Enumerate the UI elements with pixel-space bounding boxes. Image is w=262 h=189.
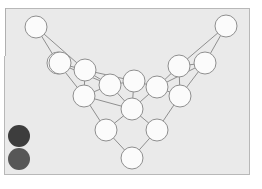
graph-node[interactable] (95, 119, 117, 141)
graph-node[interactable] (49, 52, 71, 74)
gray-token-circle[interactable] (8, 148, 30, 170)
graph-node[interactable] (121, 98, 143, 120)
screenshot-root (0, 0, 262, 189)
graph-node[interactable] (169, 85, 191, 107)
graph-node[interactable] (168, 55, 190, 77)
graph-node[interactable] (99, 74, 121, 96)
graph-node[interactable] (73, 85, 95, 107)
graph-node[interactable] (146, 76, 168, 98)
graph-node[interactable] (121, 147, 143, 169)
graph-node[interactable] (146, 119, 168, 141)
graph-node[interactable] (25, 16, 47, 38)
right-white-margin (250, 0, 262, 189)
graph-canvas (0, 0, 262, 189)
graph-node[interactable] (74, 59, 96, 81)
top-left-notch (0, 0, 6, 56)
graph-node[interactable] (215, 15, 237, 37)
bottom-white-margin (0, 175, 262, 189)
top-white-margin (0, 0, 262, 8)
graph-node[interactable] (123, 70, 145, 92)
dark-token-circle[interactable] (8, 125, 30, 147)
node-layer (25, 15, 237, 169)
graph-node[interactable] (194, 52, 216, 74)
